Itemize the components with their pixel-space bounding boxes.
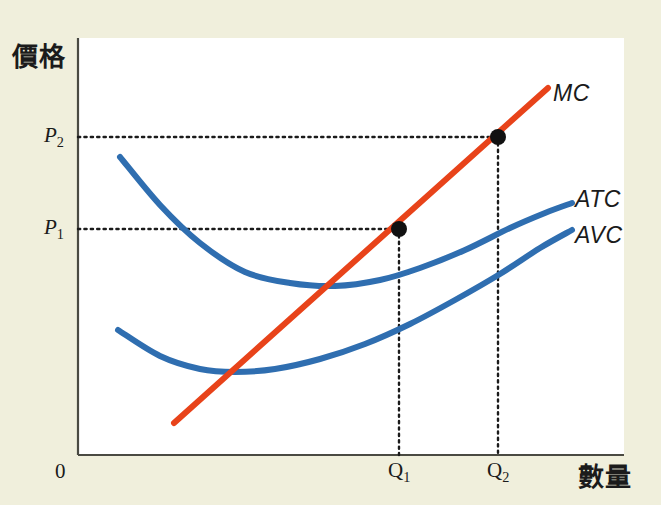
origin-label: 0	[55, 459, 66, 484]
avc-curve-label: AVC	[575, 222, 623, 249]
y-axis-title: 價格	[12, 36, 66, 73]
tick-label-p2: P2	[44, 123, 64, 151]
cost-curves-figure: 價格 數量 0 P2 P1 Q1 Q2 MC ATC AVC	[0, 0, 661, 505]
chart-canvas	[0, 0, 661, 505]
tick-label-q1-base: Q	[388, 458, 403, 482]
tick-label-p2-subscript: 2	[57, 134, 64, 150]
mc-curve-label: MC	[553, 80, 590, 107]
tick-label-q2-base: Q	[487, 458, 502, 482]
tick-label-p2-base: P	[44, 123, 57, 147]
tick-label-q2-subscript: 2	[502, 469, 509, 485]
tick-label-p1-subscript: 1	[57, 226, 64, 242]
tick-label-q1-subscript: 1	[403, 469, 410, 485]
tick-label-p1-base: P	[44, 215, 57, 239]
avc-curve	[118, 230, 572, 372]
x-axis-title: 數量	[578, 456, 632, 493]
intersection-marker-p1q1	[391, 221, 407, 237]
intersection-marker-p2q2	[490, 129, 506, 145]
tick-label-q2: Q2	[487, 458, 509, 486]
tick-label-q1: Q1	[388, 458, 410, 486]
atc-curve-label: ATC	[575, 186, 621, 213]
tick-label-p1: P1	[44, 215, 64, 243]
